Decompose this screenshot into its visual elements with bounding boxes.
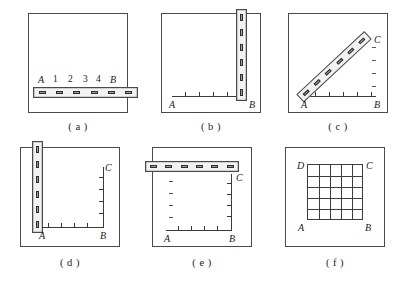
panel-f-label-A: A <box>298 223 304 233</box>
panel-b: A B ( b ) <box>161 13 261 113</box>
grid-line-vertical <box>352 165 353 219</box>
panel-c: A B C ( c ) <box>288 13 388 113</box>
panel-c-dash <box>372 86 376 87</box>
panel-b-tick <box>185 92 186 96</box>
panel-c-label-B: B <box>374 100 380 110</box>
ruler-slot <box>240 44 244 51</box>
panel-c-axis-horizontal <box>302 96 376 97</box>
panel-d-label-A: A <box>39 231 45 241</box>
panel-c-tick <box>357 92 358 96</box>
panel-e-tick <box>191 226 192 230</box>
panel-f-label-B: B <box>365 223 371 233</box>
grid-line-vertical <box>341 165 342 219</box>
panel-e-tick <box>227 216 231 217</box>
panel-e-tick <box>217 226 218 230</box>
ruler-slot <box>36 161 40 168</box>
ruler-slot <box>314 79 322 86</box>
ruler-slot <box>36 146 40 153</box>
panel-c-tick <box>371 92 372 96</box>
panel-b-caption: ( b ) <box>161 121 261 132</box>
panel-d-tick <box>87 223 88 227</box>
grid-line-vertical <box>319 165 320 219</box>
ruler-slot <box>358 37 366 44</box>
panel-c-dash <box>372 73 376 74</box>
ruler-slot <box>302 89 310 96</box>
panel-a-label-A: A <box>38 75 44 85</box>
panel-b-axis-horizontal <box>172 96 242 97</box>
panel-c-dash <box>372 60 376 61</box>
panel-a-frame <box>28 13 128 113</box>
panel-e-tick <box>227 194 231 195</box>
ruler-slot <box>36 191 40 198</box>
grid-line-vertical <box>330 165 331 219</box>
panel-b-tick <box>213 92 214 96</box>
ruler-slot <box>347 48 355 55</box>
panel-c-caption: ( c ) <box>288 121 388 132</box>
panel-d-tick <box>99 189 103 190</box>
panel-e-ruler <box>145 161 239 172</box>
ruler-slot <box>240 29 244 36</box>
panel-f-caption: ( f ) <box>285 257 385 268</box>
panel-b-label-A: A <box>169 100 175 110</box>
panel-c-tick <box>315 92 316 96</box>
panel-e-axis-vertical <box>231 174 232 231</box>
panel-e-tick <box>227 183 231 184</box>
grid-line-horizontal <box>308 176 362 177</box>
panel-d-tick <box>61 223 62 227</box>
grid-line-horizontal <box>308 209 362 210</box>
panel-a-number-2: 2 <box>68 75 73 85</box>
panel-a-number-3: 3 <box>83 75 88 85</box>
panel-a-ruler <box>33 87 138 98</box>
ruler-slot <box>325 68 333 75</box>
figure-container: A 1 2 3 4 B ( a ) <box>0 0 400 281</box>
ruler-slot <box>240 59 244 66</box>
panel-f-label-C: C <box>366 161 373 171</box>
panel-b-tick <box>199 92 200 96</box>
panel-f-label-D: D <box>297 161 304 171</box>
panel-e-tick <box>178 226 179 230</box>
panel-e-axis-horizontal <box>166 230 232 231</box>
panel-d-axis-vertical <box>103 167 104 228</box>
ruler-slot <box>336 58 344 65</box>
panel-d-ruler <box>32 141 43 233</box>
panel-e-label-A: A <box>164 234 170 244</box>
ruler-slot <box>56 91 63 95</box>
panel-a-label-B: B <box>110 75 116 85</box>
panel-f: D C A B ( f ) <box>285 147 385 247</box>
panel-d-caption: ( d ) <box>20 257 120 268</box>
panel-c-label-C: C <box>374 35 381 45</box>
ruler-slot <box>125 91 132 95</box>
panel-d-tick <box>99 201 103 202</box>
panel-d-axis-horizontal <box>38 227 104 228</box>
ruler-slot <box>196 165 203 169</box>
panel-a-number-1: 1 <box>53 75 58 85</box>
ruler-slot <box>150 165 157 169</box>
panel-a-caption: ( a ) <box>28 121 128 132</box>
panel-d: A B C ( d ) <box>20 147 120 247</box>
panel-d-tick <box>74 223 75 227</box>
ruler-slot <box>165 165 172 169</box>
panel-d-label-B: B <box>100 231 106 241</box>
ruler-slot <box>36 206 40 213</box>
ruler-slot <box>211 165 218 169</box>
ruler-slot <box>36 176 40 183</box>
panel-d-tick <box>48 223 49 227</box>
panel-e-dash <box>169 205 173 206</box>
panel-d-tick <box>99 213 103 214</box>
ruler-slot <box>108 91 115 95</box>
panel-d-label-C: C <box>105 163 112 173</box>
panel-e-tick <box>204 226 205 230</box>
panel-e-label-B: B <box>229 234 235 244</box>
panel-e-caption: ( e ) <box>152 257 252 268</box>
ruler-slot <box>240 14 244 21</box>
panel-c-tick <box>329 92 330 96</box>
panel-d-tick <box>99 177 103 178</box>
panel-b-label-B: B <box>249 100 255 110</box>
panel-e-dash <box>169 193 173 194</box>
ruler-slot <box>240 74 244 81</box>
ruler-slot <box>227 165 234 169</box>
panel-e: A B C ( e ) <box>152 147 252 247</box>
ruler-slot <box>36 221 40 228</box>
ruler-slot <box>39 91 46 95</box>
panel-b-ruler <box>236 9 247 101</box>
